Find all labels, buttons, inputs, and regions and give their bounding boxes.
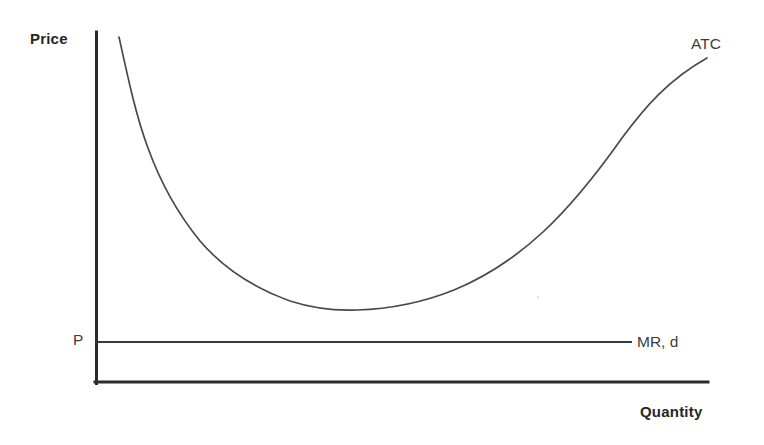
x-axis-label: Quantity xyxy=(640,404,702,419)
chart-canvas xyxy=(0,0,764,445)
y-axis-label: Price xyxy=(30,31,68,46)
price-level-label: P xyxy=(73,332,83,348)
chart-figure: Price Quantity ATC MR, d P xyxy=(0,0,764,445)
mr-demand-line-label: MR, d xyxy=(637,334,678,350)
atc-curve xyxy=(119,37,707,310)
atc-curve-label: ATC xyxy=(691,36,721,52)
scan-speck-artifact xyxy=(537,296,539,298)
